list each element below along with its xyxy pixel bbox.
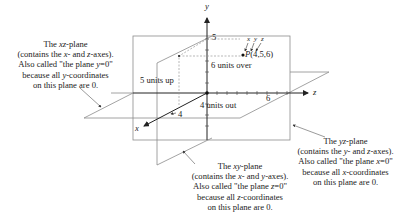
xy-callout-line-4: because all z-coordinates [180,192,300,202]
dashed-coordinate-path [179,39,243,105]
origin-point [205,91,209,95]
xy-callout-line-2: (contains the x- and y-axes). [180,171,300,181]
x-axis-label: x [135,124,139,134]
xy-callout-line-1: The xy-plane [180,161,300,171]
point-coord-y: y [254,35,257,45]
corner-point [178,55,180,57]
xy-plane-callout: The xy-plane (contains the x- and y-axes… [180,161,300,212]
x-tick-label: 4 [178,110,182,120]
units-out-label: 4 units out [200,101,236,111]
yz-callout-line-3: Also called "the plane x=0" [283,156,408,166]
xz-callout-line-4: because all y-coordinates [8,70,123,80]
xz-callout-line-5: on this plane are 0. [8,80,123,90]
point-p-label: PP(4,5,6)(4,5,6) [245,50,273,60]
y-tick-label: 5 [212,33,216,43]
xz-callout-line-3: Also called "the plane y=0" [8,59,123,69]
yz-callout-line-5: on this plane are 0. [283,177,408,187]
xz-callout-line-2: (contains the x- and z-axes). [8,49,123,59]
xz-callout-line-1: The xz-plane [8,39,123,49]
z-axis-label: z [313,88,316,98]
yz-callout-line-4: because all x-coordinates [283,167,408,177]
xy-callout-line-3: Also called "the plane z=0" [180,181,300,191]
yz-plane-callout: The yz-plane (contains the y- and z-axes… [283,136,408,187]
units-over-label: 6 units over [211,61,252,71]
y-axis-label: y [205,2,209,12]
yz-callout-line-1: The yz-plane [283,136,408,146]
xy-callout-line-5: on this plane are 0. [180,202,300,212]
yz-callout-line-2: (contains the y- and z-axes). [283,146,408,156]
z-tick-label: 6 [266,94,270,104]
point-coord-x: x [247,35,250,45]
units-up-label: 5 units up [140,76,174,86]
x-axis [144,93,207,126]
point-coord-z: z [261,35,264,45]
xz-plane-callout: The xz-plane (contains the x- and z-axes… [8,39,123,90]
